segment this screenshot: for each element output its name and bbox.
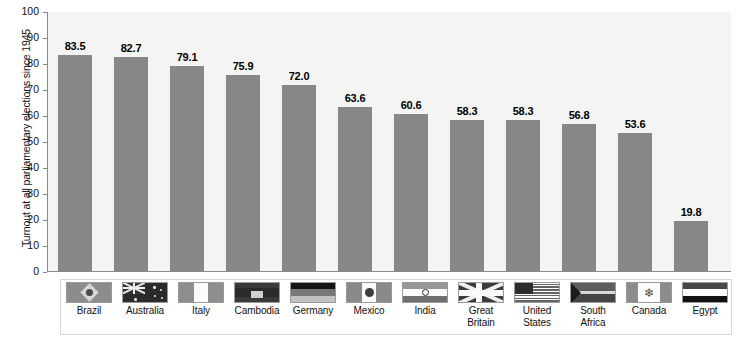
- bar: [506, 120, 540, 272]
- bar-value-label: 75.9: [215, 60, 271, 72]
- south-africa-flag: [570, 282, 616, 303]
- legend-item: India: [397, 280, 453, 334]
- legend-item: Egypt: [677, 280, 733, 334]
- germany-flag: [290, 282, 336, 303]
- bar-value-label: 19.8: [663, 206, 719, 218]
- bar-group: 63.6: [327, 12, 383, 272]
- bar-value-label: 63.6: [327, 92, 383, 104]
- canada-flag: ❄: [626, 282, 672, 303]
- country-label-line2: Britain: [467, 317, 495, 328]
- bar: [170, 66, 204, 272]
- bar: [114, 57, 148, 272]
- bar-chart: Turnout at all parliamentary elections s…: [0, 0, 739, 344]
- y-axis-tick-label: 30: [27, 187, 39, 199]
- country-label-line2: Africa: [581, 317, 606, 328]
- country-legend-strip: BrazilAustraliaItalyCambodiaGermanyMexic…: [60, 279, 732, 335]
- bar: [58, 55, 92, 272]
- bar-group: 58.3: [495, 12, 551, 272]
- bar-value-label: 83.5: [47, 40, 103, 52]
- country-label-line2: States: [523, 317, 551, 328]
- country-label: Brazil: [57, 305, 121, 317]
- bar: [562, 124, 596, 272]
- brazil-flag: [66, 282, 112, 303]
- bar-group: 72.0: [271, 12, 327, 272]
- bars-layer: 83.582.779.175.972.063.660.658.358.356.8…: [47, 12, 731, 272]
- bar-group: 75.9: [215, 12, 271, 272]
- bar-group: 83.5: [47, 12, 103, 272]
- country-label: Canada: [617, 305, 681, 317]
- country-label: Italy: [169, 305, 233, 317]
- united-states-flag: [514, 282, 560, 303]
- bar-value-label: 53.6: [607, 118, 663, 130]
- y-axis-tick-label: 70: [27, 83, 39, 95]
- country-label: India: [393, 305, 457, 317]
- bar: [338, 107, 372, 272]
- italy-flag: [178, 282, 224, 303]
- legend-item: Mexico: [341, 280, 397, 334]
- country-label: UnitedStates: [505, 305, 569, 328]
- bar-group: 60.6: [383, 12, 439, 272]
- country-label: Australia: [113, 305, 177, 317]
- mexico-flag: [346, 282, 392, 303]
- great-britain-flag: [458, 282, 504, 303]
- legend-item: SouthAfrica: [565, 280, 621, 334]
- y-axis-tick-label: 90: [27, 31, 39, 43]
- country-label: Egypt: [673, 305, 737, 317]
- bar-value-label: 72.0: [271, 70, 327, 82]
- country-label: Cambodia: [225, 305, 289, 317]
- legend-item: UnitedStates: [509, 280, 565, 334]
- country-label: GreatBritain: [449, 305, 513, 328]
- egypt-flag: [682, 282, 728, 303]
- cambodia-flag: [234, 282, 280, 303]
- bar-value-label: 82.7: [103, 42, 159, 54]
- legend-item: GreatBritain: [453, 280, 509, 334]
- bar: [450, 120, 484, 272]
- legend-item: Italy: [173, 280, 229, 334]
- legend-item: Germany: [285, 280, 341, 334]
- bar: [618, 133, 652, 272]
- bar-group: 82.7: [103, 12, 159, 272]
- y-axis-tick-label: 60: [27, 109, 39, 121]
- bar-group: 19.8: [663, 12, 719, 272]
- bar-value-label: 56.8: [551, 109, 607, 121]
- y-axis-tick-label: 10: [27, 239, 39, 251]
- y-axis-tick-label: 0: [33, 265, 39, 277]
- bar-group: 56.8: [551, 12, 607, 272]
- bar: [394, 114, 428, 272]
- bar: [282, 85, 316, 272]
- bar-value-label: 58.3: [495, 105, 551, 117]
- country-label: Mexico: [337, 305, 401, 317]
- legend-item: Australia: [117, 280, 173, 334]
- y-axis-tick-label: 50: [27, 135, 39, 147]
- country-label: Germany: [281, 305, 345, 317]
- y-axis-tick-label: 80: [27, 57, 39, 69]
- country-label: SouthAfrica: [561, 305, 625, 328]
- legend-item: Cambodia: [229, 280, 285, 334]
- y-axis-tick-label: 20: [27, 213, 39, 225]
- bar: [674, 221, 708, 272]
- y-axis-tick-label: 40: [27, 161, 39, 173]
- legend-item: Brazil: [61, 280, 117, 334]
- bar-group: 58.3: [439, 12, 495, 272]
- y-axis-tick-label: 100: [21, 5, 39, 17]
- bar-value-label: 60.6: [383, 99, 439, 111]
- australia-flag: [122, 282, 168, 303]
- bar: [226, 75, 260, 272]
- bar-value-label: 58.3: [439, 105, 495, 117]
- bar-value-label: 79.1: [159, 51, 215, 63]
- y-axis-tick-mark: [43, 272, 47, 273]
- legend-item: ❄Canada: [621, 280, 677, 334]
- india-flag: [402, 282, 448, 303]
- bar-group: 53.6: [607, 12, 663, 272]
- bar-group: 79.1: [159, 12, 215, 272]
